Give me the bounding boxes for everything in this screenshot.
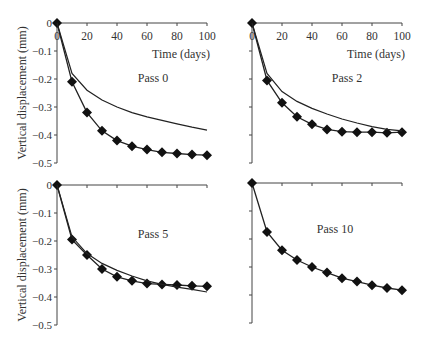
diamond-marker [367,280,377,290]
diamond-marker [67,77,77,87]
diamond-marker [202,281,212,291]
diamond-marker [382,283,392,293]
diamond-marker [367,127,377,137]
predicted-line [57,23,207,130]
diamond-marker [397,285,407,295]
diamond-marker [112,136,122,146]
x-tick-label: 80 [171,30,183,42]
y-tick-label: −0.2 [32,235,52,247]
x-axis-label: Time (days) [152,47,210,61]
measured-line [57,185,207,286]
y-tick-label: −0.1 [32,207,52,219]
y-tick-label: −0.4 [32,129,52,141]
diamond-marker [307,262,317,272]
x-tick-label: 40 [111,30,123,42]
x-tick-label: 80 [366,30,378,42]
predicted-line [57,185,207,292]
panel-pass-5: 0−0.1−0.2−0.3−0.4−0.5Vertical displaceme… [15,179,212,331]
panel-title: Pass 2 [332,71,362,85]
x-tick-label: 20 [81,30,93,42]
diamond-marker [337,127,347,137]
diamond-marker [397,127,407,137]
panel-title: Pass 5 [138,227,168,241]
diamond-marker [307,119,317,129]
diamond-marker [172,148,182,158]
panel-pass-2: 020406080100Time (days)Pass 2 [247,18,411,163]
y-tick-label: −0.3 [32,101,52,113]
x-axis-label: Time (days) [347,47,405,61]
diamond-marker [352,277,362,287]
y-tick-label: −0.4 [32,291,52,303]
diamond-marker [127,141,137,151]
diamond-marker [292,255,302,265]
y-tick-label: −0.5 [32,319,52,331]
y-axis-label: Vertical displacement (mm) [15,26,29,159]
diamond-marker [142,145,152,155]
x-tick-label: 60 [336,30,348,42]
x-tick-label: 40 [306,30,318,42]
x-tick-label: 60 [141,30,153,42]
y-tick-label: −0.2 [32,73,52,85]
panel-pass-0: 020406080100Time (days)0−0.1−0.2−0.3−0.4… [15,17,216,169]
diamond-marker [187,150,197,160]
diamond-marker [172,280,182,290]
diamond-marker [337,273,347,283]
y-tick-label: −0.1 [32,45,52,57]
y-tick-label: 0 [47,17,53,29]
chart-figure: 020406080100Time (days)0−0.1−0.2−0.3−0.4… [0,0,425,344]
panel-pass-10: Pass 10 [247,178,407,323]
diamond-marker [112,272,122,282]
diamond-marker [322,268,332,278]
x-tick-label: 20 [276,30,288,42]
predicted-line [252,23,402,131]
x-tick-label: 100 [393,30,411,42]
y-tick-label: −0.3 [32,263,52,275]
panel-title: Pass 10 [317,222,353,236]
y-tick-label: −0.5 [32,157,52,169]
diamond-marker [322,124,332,134]
measured-line [57,23,207,155]
diamond-marker [247,178,257,188]
y-tick-label: 0 [47,179,53,191]
measured-line [252,23,402,133]
diamond-marker [202,150,212,160]
y-axis-label: Vertical displacement (mm) [15,188,29,321]
x-tick-label: 100 [198,30,216,42]
diamond-marker [352,127,362,137]
panel-title: Pass 0 [138,71,168,85]
diamond-marker [157,147,167,157]
